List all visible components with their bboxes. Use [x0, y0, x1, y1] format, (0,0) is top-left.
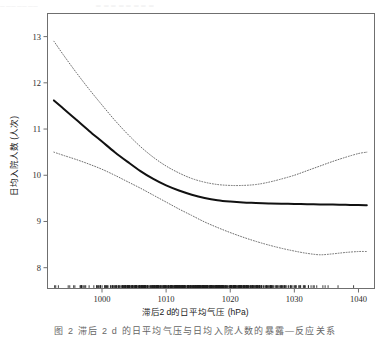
plot-frame [48, 14, 375, 289]
x-tick-label: 1000 [94, 294, 111, 304]
x-tick-label: 1030 [286, 294, 303, 304]
exposure-response-plot: 891011121310001010102010301040 [0, 0, 390, 305]
x-tick-label: 1040 [350, 294, 367, 304]
figure-caption: 图 2 滞后 2 d 的日平均气压与日均入院人数的暴露—反应关系 [0, 324, 390, 338]
x-axis-title: 滞后2 d的日平均气压 (hPa) [0, 305, 390, 317]
fit-curve [54, 100, 367, 205]
y-tick-label: 11 [33, 124, 41, 134]
figure-root: ▁▁▁▁▁▁▁ ▁ ▁ ▁ ▁ ▁ ▁ ▁ ▁ 8910111213100010… [0, 0, 390, 338]
y-tick-label: 12 [33, 78, 42, 88]
y-tick-label: 13 [33, 32, 42, 42]
y-tick-label: 9 [37, 216, 41, 226]
y-tick-label: 8 [37, 263, 41, 273]
y-tick-label: 10 [33, 170, 42, 180]
x-tick-label: 1020 [222, 294, 239, 304]
x-tick-label: 1010 [158, 294, 175, 304]
rug-group [55, 285, 354, 288]
upper-ci-curve [54, 41, 367, 185]
y-axis-title: 日均入院人数 (人次) [7, 86, 19, 226]
chart-plot-area: 891011121310001010102010301040 日均入院人数 (人… [0, 0, 390, 305]
